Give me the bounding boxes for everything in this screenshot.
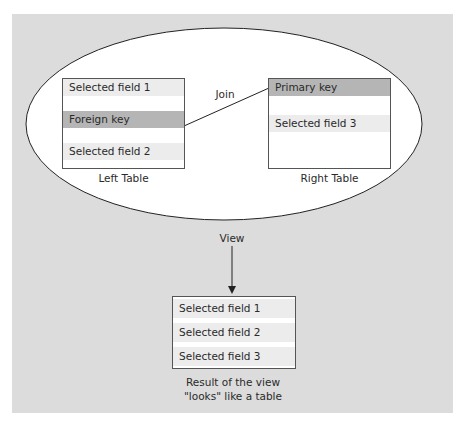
result-caption-line-2: "looks" like a table [150,390,316,402]
left-table-field-1: Selected field 1 [63,79,184,96]
view-arrow-head [228,286,236,294]
join-label: Join [205,88,245,100]
result-table-field-3: Selected field 3 [173,347,295,366]
right-table: Primary key Selected field 3 [268,78,391,169]
right-table-primary-key: Primary key [269,79,390,96]
left-table-foreign-key: Foreign key [63,111,184,128]
result-caption-line-1: Result of the view [150,376,316,388]
view-label: View [207,232,257,244]
result-table-field-2: Selected field 2 [173,323,295,342]
result-table: Selected field 1 Selected field 2 Select… [172,296,296,369]
left-table: Selected field 1 Foreign key Selected fi… [62,78,185,169]
right-table-field-3: Selected field 3 [269,115,390,132]
result-table-field-1: Selected field 1 [173,299,295,318]
left-table-field-2: Selected field 2 [63,143,184,160]
right-table-caption: Right Table [268,172,391,184]
left-table-caption: Left Table [62,172,185,184]
